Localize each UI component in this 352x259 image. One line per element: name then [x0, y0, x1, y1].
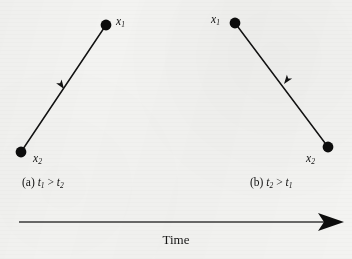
panel-a-caption-lhs-sub: 1 — [41, 181, 45, 190]
figure-vector-layer — [0, 0, 352, 259]
panel-b-x2-subscript: 2 — [311, 157, 315, 166]
panel-b-point-x1-label: x1 — [211, 13, 220, 27]
panel-a-point-x2-dot — [16, 147, 27, 158]
panel-a-x1-subscript: 1 — [121, 20, 125, 29]
time-axis-group — [19, 213, 344, 231]
panel-a-x2-subscript: 2 — [38, 157, 42, 166]
panel-b-caption: (b) t2 > t1 — [250, 176, 292, 190]
figure-canvas: x1 x2 x1 x2 (a) t1 > t2 (b) t2 > t1 Time — [0, 0, 352, 259]
panel-a-vector-group — [16, 20, 112, 158]
panel-b-point-x1-dot — [230, 18, 241, 29]
panel-b-point-x2-label: x2 — [306, 152, 315, 166]
panel-b-point-x2-dot — [323, 142, 334, 153]
panel-b-caption-relation: > — [276, 176, 283, 188]
panel-b-caption-rhs-sub: 1 — [289, 181, 293, 190]
panel-b-caption-lhs-sub: 2 — [270, 181, 274, 190]
panel-b-x1-subscript: 1 — [216, 18, 220, 27]
panel-b-direction-arrowhead — [281, 75, 292, 86]
panel-a-point-x1-dot — [101, 20, 112, 31]
panel-a-caption: (a) t1 > t2 — [22, 176, 64, 190]
panel-a-caption-prefix: (a) — [22, 176, 35, 188]
panel-b-caption-prefix: (b) — [250, 176, 263, 188]
panel-a-point-x1-label: x1 — [116, 15, 125, 29]
panel-a-point-x2-label: x2 — [33, 152, 42, 166]
panel-b-vector-group — [230, 18, 334, 153]
panel-a-caption-relation: > — [47, 176, 54, 188]
time-axis-label: Time — [0, 232, 352, 248]
panel-a-caption-rhs-sub: 2 — [60, 181, 64, 190]
panel-b-trajectory-line — [235, 23, 328, 147]
